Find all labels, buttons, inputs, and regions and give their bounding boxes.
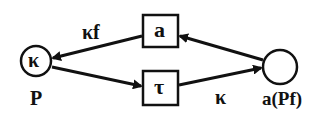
node-apf-outer-label: a(Pf) [262, 89, 302, 108]
edge-tau-to-apf [179, 68, 261, 85]
edge-apf-to-a [180, 36, 263, 60]
edge-a-to-p-label: κf [82, 22, 100, 42]
node-apf-circle [263, 50, 297, 84]
node-p-outer-label: P [30, 88, 42, 108]
node-a-label: a [154, 19, 165, 41]
node-tau-label: τ [154, 76, 164, 98]
edge-tau-to-apf-label: κ [215, 87, 226, 107]
node-p-inner-label: κ [28, 50, 39, 70]
edge-p-to-tau [52, 67, 141, 86]
